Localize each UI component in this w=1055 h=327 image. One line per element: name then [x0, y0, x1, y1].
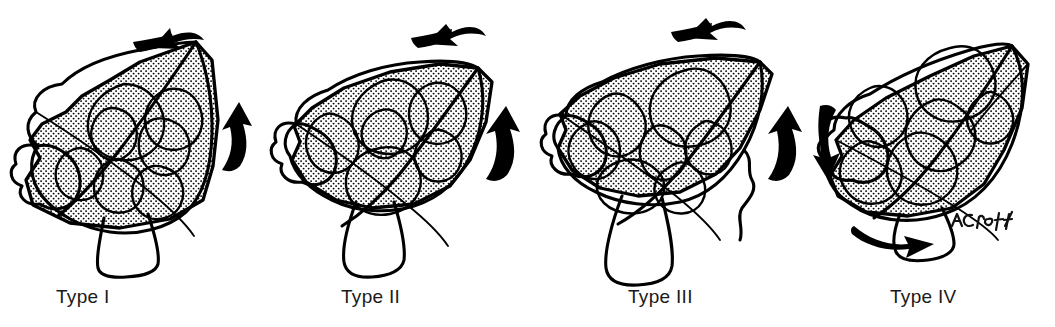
arrow-1-2 — [222, 102, 252, 171]
stipple-overlay-2 — [292, 64, 492, 208]
caption-type-1: Type I — [56, 286, 110, 308]
caption-type-3: Type III — [628, 286, 693, 308]
top-arrow-3 — [671, 18, 746, 42]
arrow-3-4 — [768, 106, 802, 181]
caption-type-2: Type II — [341, 286, 400, 308]
figure-canvas — [0, 0, 1055, 327]
caption-type-4: Type IV — [890, 286, 957, 308]
ulnar-wave-3 — [740, 150, 754, 240]
artist-signature — [952, 212, 1012, 230]
top-arrow-2 — [411, 24, 486, 48]
stipple-overlay-1 — [26, 42, 218, 228]
panel-type-2-drawing — [271, 61, 492, 277]
carpal-rotation-figure: Type I Type II Type III Type IV — [0, 0, 1055, 327]
panel-type-1-drawing — [11, 42, 218, 277]
panel-type-3-drawing — [541, 55, 772, 285]
arrow-2-3 — [486, 106, 520, 181]
